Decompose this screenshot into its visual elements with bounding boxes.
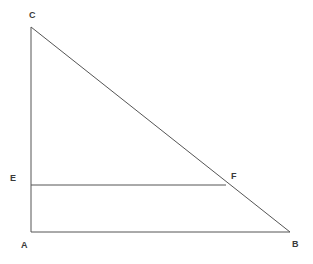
vertex-label-b: B: [292, 240, 299, 249]
triangle-figure: [0, 0, 313, 264]
geometry-diagram-canvas: C A B E F: [0, 0, 313, 264]
vertex-label-a: A: [21, 241, 28, 250]
vertex-label-f: F: [231, 172, 237, 181]
vertex-label-c: C: [29, 11, 36, 20]
vertex-label-e: E: [10, 174, 16, 183]
segment-CB: [31, 27, 290, 232]
